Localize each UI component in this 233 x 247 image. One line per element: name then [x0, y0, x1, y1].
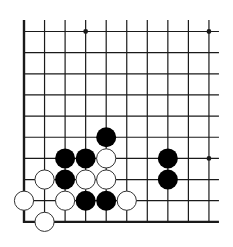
black-stone	[158, 170, 178, 190]
white-stone	[97, 170, 116, 189]
go-board	[0, 0, 233, 247]
star-point	[207, 29, 212, 34]
black-stone	[76, 191, 96, 211]
white-stone	[117, 191, 136, 210]
star-point	[207, 156, 212, 161]
white-stone	[76, 170, 95, 189]
black-stone	[158, 148, 178, 168]
black-stone	[76, 148, 96, 168]
star-point	[83, 29, 88, 34]
black-stone	[96, 191, 116, 211]
white-stone	[35, 170, 54, 189]
black-stone	[96, 127, 116, 147]
white-stone	[97, 149, 116, 168]
white-stone	[56, 191, 75, 210]
white-stone	[35, 212, 54, 231]
white-stone	[14, 191, 33, 210]
black-stone	[55, 170, 75, 190]
black-stone	[55, 148, 75, 168]
